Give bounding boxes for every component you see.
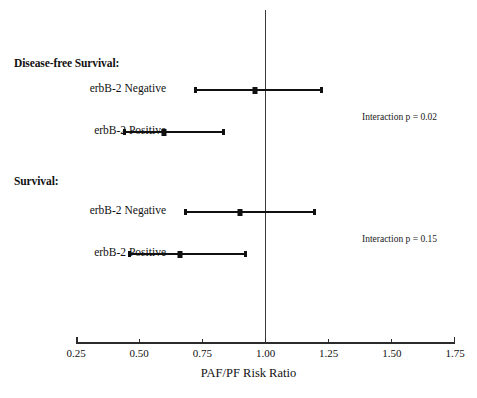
ci-cap-low (123, 129, 126, 135)
ci-bar-1-1 (127, 249, 247, 259)
interaction-p-annotation-0: Interaction p = 0.02 (362, 112, 437, 122)
x-axis-cap-right (454, 337, 456, 343)
x-axis-tick-1 (139, 339, 140, 342)
ci-cap-high (244, 251, 247, 257)
x-axis-tick-label-0: 0.25 (66, 347, 85, 359)
x-axis-tick-2 (202, 339, 203, 342)
ci-whisker-line (195, 89, 321, 91)
ci-point-estimate (177, 251, 182, 258)
interaction-p-annotation-1: Interaction p = 0.15 (362, 234, 437, 244)
plot-area: Disease-free Survival:erbB-2 Negativeerb… (0, 0, 477, 398)
ci-point-estimate (253, 87, 258, 94)
x-axis-tick-label-4: 1.25 (319, 347, 338, 359)
x-axis-tick-label-3: 1.00 (256, 347, 275, 359)
ci-point-estimate (238, 209, 243, 216)
x-axis-tick-5 (391, 339, 392, 342)
x-axis-tick-4 (328, 339, 329, 342)
x-axis-tick-3 (265, 339, 266, 342)
row-label-0-0: erbB-2 Negative (90, 82, 166, 94)
ci-whisker-line (129, 253, 245, 255)
ci-bar-0-0 (193, 85, 323, 95)
ci-cap-high (320, 87, 323, 93)
ci-whisker-line (185, 211, 314, 213)
x-axis-title: PAF/PF Risk Ratio (201, 366, 296, 381)
row-label-1-0: erbB-2 Negative (90, 204, 166, 216)
forest-plot-figure: Disease-free Survival:erbB-2 Negativeerb… (0, 0, 477, 398)
ci-point-estimate (162, 129, 167, 136)
ci-whisker-line (124, 131, 223, 133)
x-axis-cap-left (76, 337, 78, 343)
ci-cap-low (128, 251, 131, 257)
x-axis-tick-label-6: 1.75 (445, 347, 464, 359)
x-axis-tick-label-5: 1.50 (382, 347, 401, 359)
ci-bar-1-0 (183, 207, 316, 217)
ci-cap-low (184, 209, 187, 215)
section-header-0: Disease-free Survival: (14, 57, 119, 69)
ci-cap-high (222, 129, 225, 135)
ci-cap-high (313, 209, 316, 215)
reference-line-at-1 (265, 10, 266, 342)
x-axis-line (76, 342, 455, 344)
section-header-1: Survival: (14, 175, 58, 187)
x-axis-tick-label-2: 0.75 (193, 347, 212, 359)
ci-cap-low (194, 87, 197, 93)
ci-bar-0-1 (122, 127, 225, 137)
x-axis-tick-label-1: 0.50 (130, 347, 149, 359)
